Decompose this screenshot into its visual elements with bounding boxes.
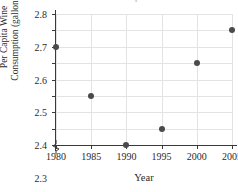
- x-axis-tick: [91, 145, 92, 149]
- x-axis-tick: [162, 145, 163, 149]
- gridline-horizontal: [56, 129, 232, 130]
- y-axis-tick: 2.4: [52, 80, 56, 81]
- axis-break-icon: [51, 140, 61, 154]
- x-axis-tick-label: 1985: [81, 151, 101, 162]
- y-axis-tick: 2.7: [52, 30, 56, 31]
- y-axis-tick: 2.5: [52, 63, 56, 64]
- data-point: [123, 142, 129, 148]
- x-axis-title: Year: [56, 172, 232, 183]
- x-axis-tick: [197, 145, 198, 149]
- y-axis-title-line-2: Consumption (gallons): [10, 0, 21, 96]
- gridline-horizontal: [56, 47, 232, 48]
- y-axis-tick-label: 2.6: [35, 74, 48, 85]
- x-axis-tick-label: 2000: [187, 151, 207, 162]
- gridline-horizontal: [56, 112, 232, 113]
- y-axis-tick-label: 2.3: [35, 172, 48, 183]
- x-axis-line: [55, 145, 237, 146]
- gridline-horizontal: [56, 63, 232, 64]
- scatter-chart-figure: Wine Consumption Per Capita Wine Consump…: [0, 0, 238, 192]
- y-axis-tick-label: 2.8: [35, 9, 48, 20]
- gridline-vertical: [126, 14, 127, 145]
- plot-area: 2.02.12.22.32.42.52.62.72.8 198019851990…: [56, 14, 232, 145]
- data-point: [229, 27, 235, 33]
- gridline-vertical: [197, 14, 198, 145]
- data-point: [53, 44, 59, 50]
- y-axis-tick: 2.2: [52, 112, 56, 113]
- gridline-vertical: [56, 14, 57, 145]
- chart-title: Wine Consumption: [0, 0, 238, 2]
- y-axis-tick-label: 2.7: [35, 41, 48, 52]
- y-axis-title: Per Capita Wine Consumption (gallons): [0, 0, 23, 96]
- x-axis-tick: [232, 145, 233, 149]
- y-axis-title-line-1: Per Capita Wine: [0, 0, 10, 96]
- gridline-vertical: [91, 14, 92, 145]
- data-point: [159, 126, 165, 132]
- gridline-horizontal: [56, 80, 232, 81]
- gridline-vertical: [232, 14, 233, 145]
- data-point: [194, 60, 200, 66]
- x-axis-tick-label: 1995: [152, 151, 172, 162]
- y-axis-tick-label: 2.4: [35, 140, 48, 151]
- y-axis-tick-label: 2.5: [35, 107, 48, 118]
- gridline-horizontal: [56, 30, 232, 31]
- y-axis-tick: 2.3: [52, 96, 56, 97]
- y-axis-tick: 2.8: [52, 14, 56, 15]
- x-axis-tick-label: 2005: [222, 151, 238, 162]
- gridline-horizontal: [56, 14, 232, 15]
- y-axis-tick: 2.1: [52, 129, 56, 130]
- gridline-horizontal: [56, 96, 232, 97]
- x-axis-tick-label: 1990: [116, 151, 136, 162]
